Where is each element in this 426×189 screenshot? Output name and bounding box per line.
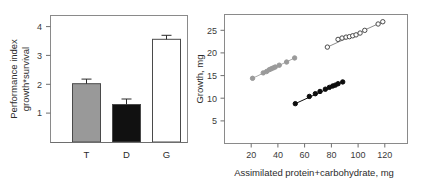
- data-point: [250, 76, 254, 80]
- data-point: [376, 22, 380, 26]
- data-point: [325, 45, 329, 49]
- bar-category-D: D: [123, 149, 130, 160]
- scatter-series-open-series: [325, 20, 385, 50]
- data-point: [318, 89, 322, 93]
- bar-x-axis: T D G: [84, 149, 171, 160]
- data-point: [363, 28, 367, 32]
- bar-G: [153, 39, 181, 142]
- scatter-y-axis: 5 10 15 20 25: [207, 26, 225, 127]
- bar-ytick-1: 1: [37, 108, 42, 118]
- bar-ytick-4: 4: [37, 22, 42, 32]
- scatter-xtick-120: 120: [377, 150, 392, 160]
- bar-ytick-2: 2: [37, 80, 42, 90]
- data-point: [307, 94, 311, 98]
- scatter-ytick-15: 15: [207, 71, 217, 81]
- scatter-xlabel: Assimilated protein+carbohydrate, mg: [234, 167, 394, 178]
- scatter-series-layer: [250, 20, 385, 106]
- bar-category-T: T: [84, 149, 90, 160]
- bar-series: [73, 39, 181, 142]
- scatter-ytick-10: 10: [207, 94, 217, 104]
- bar-chart-svg: 1 2 3 4 Performance index growth*surviva…: [0, 0, 200, 189]
- scatter-series-gray-series: [250, 56, 296, 81]
- data-point: [292, 56, 296, 60]
- bar-ylabel-line1: Performance index: [8, 39, 19, 119]
- scatter-chart-panel: 5 10 15 20 25 Growth, mg 20 40 60 80 1: [196, 0, 426, 189]
- scatter-ytick-5: 5: [212, 116, 217, 126]
- scatter-ylabel: Growth, mg: [196, 54, 205, 103]
- bar-ytick-3: 3: [37, 51, 42, 61]
- bar-y-axis-title: Performance index growth*survival: [8, 39, 31, 119]
- scatter-xtick-60: 60: [300, 150, 310, 160]
- data-point: [341, 80, 345, 84]
- scatter-xtick-40: 40: [273, 150, 283, 160]
- scatter-series-black-series: [293, 80, 345, 106]
- scatter-xtick-80: 80: [326, 150, 336, 160]
- bar-D: [113, 105, 141, 143]
- scatter-ytick-20: 20: [207, 48, 217, 58]
- data-point: [358, 31, 362, 35]
- data-point: [336, 82, 340, 86]
- scatter-chart-svg: 5 10 15 20 25 Growth, mg 20 40 60 80 1: [196, 0, 426, 189]
- data-point: [381, 20, 385, 24]
- bar-ylabel-line2: growth*survival: [20, 47, 31, 111]
- data-point: [313, 92, 317, 96]
- scatter-xtick-20: 20: [246, 150, 256, 160]
- bar-category-G: G: [163, 149, 170, 160]
- data-point: [284, 60, 288, 64]
- scatter-x-axis: 20 40 60 80 100 120: [246, 144, 392, 161]
- bar-y-axis: 1 2 3 4: [37, 22, 51, 119]
- bar-T: [73, 84, 101, 142]
- scatter-ytick-25: 25: [207, 26, 217, 36]
- data-point: [293, 101, 297, 105]
- figure-container: 1 2 3 4 Performance index growth*surviva…: [0, 0, 426, 189]
- scatter-xtick-100: 100: [351, 150, 366, 160]
- data-point: [277, 63, 281, 67]
- bar-chart-panel: 1 2 3 4 Performance index growth*surviva…: [0, 0, 200, 189]
